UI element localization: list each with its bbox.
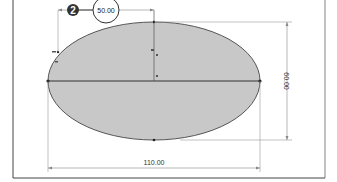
sketch-canvas[interactable]: 60.00 110.00 2 50.00 [0, 0, 337, 182]
dimension-height-value: 60.00 [283, 72, 290, 90]
dimension-width-value: 110.00 [144, 159, 165, 166]
step-callout: 2 50.00 [67, 0, 119, 23]
dimension-top-value: 50.00 [97, 7, 115, 14]
step-number: 2 [70, 5, 76, 16]
